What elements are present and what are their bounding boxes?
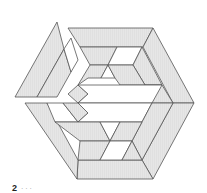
center-bar-upper — [78, 85, 162, 103]
figure-caption: 2· · · — [12, 184, 32, 193]
hexagon-tiling-figure — [0, 0, 207, 193]
center-bar-lower — [78, 103, 152, 122]
detached-strip — [15, 22, 78, 97]
ring-top — [68, 28, 153, 47]
caption-number: 2 — [12, 183, 17, 193]
caption-text: · · · — [21, 185, 32, 192]
ring-bottom — [77, 160, 153, 179]
